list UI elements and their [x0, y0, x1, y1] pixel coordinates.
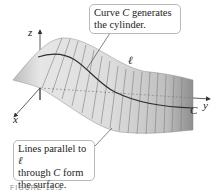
y-axis-label: y	[203, 99, 208, 111]
bottom-callout: Lines parallel to ℓ through C form the s…	[13, 140, 95, 181]
top-callout: Curve C generates the cylinder.	[89, 4, 181, 34]
bottom-callout-line1: Lines parallel to ℓ	[18, 143, 90, 167]
curve-c-label: C	[190, 104, 197, 116]
top-callout-line1: Curve C generates	[94, 7, 176, 19]
figure-caption: FIGURE 15.5	[10, 184, 63, 191]
bottom-callout-line2: through C form	[18, 167, 90, 179]
cylinder-surface	[13, 38, 193, 133]
x-axis-label: x	[13, 113, 18, 125]
bottom-callout-leader	[95, 128, 112, 146]
line-l-label: ℓ	[128, 54, 133, 66]
z-axis-label: z	[28, 26, 32, 38]
top-callout-line2: the cylinder.	[94, 19, 176, 31]
